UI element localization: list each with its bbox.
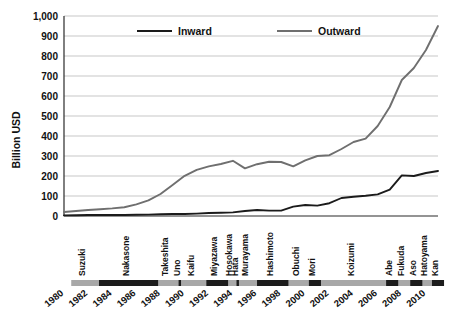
pm-segment-miyazawa <box>206 280 228 286</box>
pm-segment-uno <box>179 280 181 286</box>
pm-label-hata: Hata <box>230 257 240 276</box>
legend-label-inward: Inward <box>178 25 212 37</box>
pm-segment-hashimoto <box>257 280 288 286</box>
y-axis-tick-labels: 01002003004005006007008009001,000 <box>33 11 58 222</box>
x-tick-label-1984: 1984 <box>90 287 114 309</box>
y-tick-label-500: 500 <box>41 111 58 122</box>
pm-segment-kan <box>432 280 444 286</box>
y-tick-label-300: 300 <box>41 151 58 162</box>
y-tick-label-0: 0 <box>52 211 58 222</box>
pm-label-miyazawa: Miyazawa <box>209 237 219 276</box>
pm-label-uno: Uno <box>172 259 182 276</box>
prime-minister-track <box>71 280 444 286</box>
y-axis-title: Billion USD <box>10 111 22 169</box>
x-tick-label-1986: 1986 <box>114 287 137 309</box>
pm-label-nakasone: Nakasone <box>121 236 131 276</box>
chart-canvas: 01002003004005006007008009001,000 Billio… <box>0 0 452 325</box>
legend-label-outward: Outward <box>318 25 361 37</box>
x-tick-label-2008: 2008 <box>380 287 403 309</box>
fdi-line-chart: 01002003004005006007008009001,000 Billio… <box>0 0 452 325</box>
y-tick-label-900: 900 <box>41 31 58 42</box>
x-tick-label-1982: 1982 <box>66 287 89 309</box>
pm-label-obuchi: Obuchi <box>291 247 301 276</box>
y-tick-label-200: 200 <box>41 171 58 182</box>
y-axis-title-group: Billion USD <box>10 111 22 169</box>
pm-label-aso: Aso <box>408 260 418 276</box>
pm-segment-mori <box>309 280 321 286</box>
pm-label-hashimoto: Hashimoto <box>265 232 275 276</box>
x-tick-label-2000: 2000 <box>283 287 306 309</box>
pm-label-abe: Abe <box>384 260 394 276</box>
x-tick-label-2010: 2010 <box>404 287 427 309</box>
y-tick-label-700: 700 <box>41 71 58 82</box>
pm-segment-abe <box>386 280 398 286</box>
x-axis-tick-labels: 1980198219841986198819901992199419961998… <box>42 287 427 309</box>
x-tick-label-2006: 2006 <box>356 287 379 309</box>
pm-segment-hata <box>237 280 239 286</box>
pm-label-fukuda: Fukuda <box>396 246 406 276</box>
x-tick-label-1990: 1990 <box>163 287 186 309</box>
pm-label-suzuki: Suzuki <box>77 249 87 276</box>
pm-label-kaifu: Kaifu <box>186 255 196 276</box>
x-tick-label-1988: 1988 <box>139 287 162 309</box>
y-tick-label-100: 100 <box>41 191 58 202</box>
pm-label-hatoyama: Hatoyama <box>419 235 429 276</box>
x-tick-label-1980: 1980 <box>42 287 65 309</box>
x-tick-label-1992: 1992 <box>187 287 210 309</box>
x-tick-label-1998: 1998 <box>259 287 282 309</box>
pm-label-koizumi: Koizumi <box>346 243 356 276</box>
pm-label-takeshita: Takeshita <box>160 237 170 276</box>
prime-minister-labels: SuzukiNakasoneTakeshitaUnoKaifuMiyazawaH… <box>77 232 440 276</box>
y-tick-label-1000: 1,000 <box>33 11 58 22</box>
x-tick-label-2004: 2004 <box>332 287 356 309</box>
pm-segment-nakasone <box>99 280 158 286</box>
y-tick-label-600: 600 <box>41 91 58 102</box>
x-tick-label-1996: 1996 <box>235 287 258 309</box>
pm-label-kan: Kan <box>430 260 440 276</box>
pm-segment-aso <box>410 280 422 286</box>
x-tick-label-2002: 2002 <box>307 287 330 309</box>
y-tick-label-400: 400 <box>41 131 58 142</box>
x-tick-label-1994: 1994 <box>211 287 235 309</box>
pm-label-mori: Mori <box>307 258 317 276</box>
pm-label-murayama: Murayama <box>240 234 250 276</box>
y-tick-label-800: 800 <box>41 51 58 62</box>
